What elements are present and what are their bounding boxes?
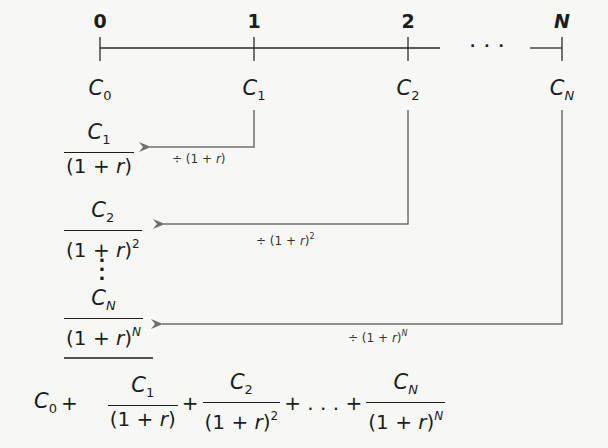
arrow-label-2: ÷ (1 + r)2 (256, 232, 315, 248)
period-label-2: 2 (401, 10, 414, 32)
sum-term-2: C2 (1 + r)2 (203, 370, 281, 435)
period-label-n: N (554, 10, 570, 32)
sum-ellipsis: + . . . + (284, 391, 362, 415)
arrow-label-n: ÷ (1 + r)N (348, 329, 407, 345)
plus-sign: + (61, 391, 78, 415)
discount-arrow-n (162, 110, 562, 324)
discounted-term-1: C1 (1 + r) (64, 120, 134, 179)
present-value-sum: C0 + C1 (1 + r) + C2 (1 + r)2 + . . . + … (34, 370, 445, 435)
cash-flow-c0: C0 (89, 76, 112, 103)
sum-term-1: C1 (1 + r) (108, 373, 178, 432)
period-label-0: 0 (93, 10, 106, 32)
discount-arrow-2 (164, 110, 408, 224)
discounted-term-n: CN (1 + r)N (64, 286, 143, 351)
plus-sign: + (182, 391, 199, 415)
vertical-ellipsis: · · · (96, 256, 108, 283)
period-label-1: 1 (247, 10, 260, 32)
arrow-label-1: ÷ (1 + r) (172, 152, 226, 166)
discount-arrow-1 (150, 110, 254, 147)
cash-flow-cn: CN (550, 76, 574, 103)
cash-flow-c2: C2 (397, 76, 420, 103)
cash-flow-c1: C1 (243, 76, 266, 103)
timeline-ellipsis: · · · (470, 38, 506, 54)
sum-term-n: CN (1 + r)N (366, 370, 445, 435)
sum-c0: C0 (34, 389, 57, 416)
